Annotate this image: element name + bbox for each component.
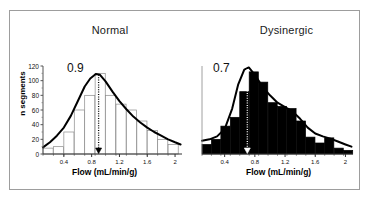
- histogram-bar: [126, 110, 136, 154]
- figure-border-frame: Normal n segments 0.9 Flow (mL/min/g) 02…: [9, 10, 360, 190]
- y-axis-tick-label: 20: [32, 136, 40, 143]
- y-axis: 020406080100120: [28, 63, 43, 158]
- y-axis-tick-label: 80: [32, 92, 40, 99]
- plot-area-normal: 0204060801001200.40.81.21.62: [10, 11, 190, 191]
- histogram-bar: [74, 110, 84, 154]
- histogram-bar: [268, 103, 277, 154]
- histogram-bar: [158, 139, 168, 154]
- x-axis-tick-label: 1.2: [281, 159, 290, 165]
- histogram-bar: [85, 95, 95, 154]
- histogram-bar: [116, 104, 126, 154]
- histogram-bar: [296, 121, 305, 154]
- figure-container: Normal n segments 0.9 Flow (mL/min/g) 02…: [0, 0, 370, 202]
- x-axis: 0.40.81.21.62: [43, 154, 182, 165]
- x-axis-tick-label: 1.2: [115, 159, 124, 165]
- histogram-bar: [168, 144, 178, 154]
- histogram-bar: [43, 148, 53, 154]
- x-axis-tick-label: 2: [344, 159, 348, 165]
- y-axis-tick-label: 0: [35, 151, 39, 158]
- histogram-bar: [278, 106, 287, 154]
- histogram-bar: [147, 131, 157, 154]
- x-axis-tick-label: 1.6: [311, 159, 320, 165]
- histogram-bar: [106, 95, 116, 154]
- panel-dysinergic: Dysinergic 0.7 Flow (mL/min/g) 0.40.81.2…: [190, 11, 361, 191]
- x-axis-tick-label: 0.8: [87, 159, 96, 165]
- x-axis-tick-label: 0.4: [220, 159, 229, 165]
- histogram-bar: [344, 150, 353, 154]
- histogram-bar: [64, 132, 74, 154]
- y-axis-tick-label: 100: [28, 77, 39, 84]
- histogram-bar: [259, 82, 268, 154]
- histogram-bar: [315, 143, 324, 154]
- histogram-bar: [306, 137, 315, 154]
- x-axis-tick-label: 0.4: [60, 159, 69, 165]
- histogram-bars: [202, 72, 353, 154]
- y-axis-tick-label: 120: [28, 63, 39, 70]
- histogram-bars: [43, 73, 178, 154]
- x-axis: 0.40.81.21.62: [202, 154, 353, 165]
- histogram-bar: [211, 139, 220, 154]
- y-axis-tick-label: 40: [32, 121, 40, 128]
- histogram-bar: [53, 147, 63, 154]
- plot-area-dysinergic: 0.40.81.21.62: [190, 11, 361, 191]
- histogram-bar: [334, 148, 343, 154]
- histogram-bar: [287, 109, 296, 154]
- histogram-bar: [249, 72, 258, 154]
- x-axis-tick-label: 0.8: [251, 159, 260, 165]
- y-axis-tick-label: 60: [32, 107, 40, 114]
- histogram-bar: [202, 144, 211, 154]
- histogram-bar: [95, 73, 105, 154]
- panel-normal: Normal n segments 0.9 Flow (mL/min/g) 02…: [10, 11, 190, 191]
- x-axis-tick-label: 1.6: [143, 159, 152, 165]
- histogram-bar: [230, 117, 239, 154]
- x-axis-tick-label: 2: [173, 159, 177, 165]
